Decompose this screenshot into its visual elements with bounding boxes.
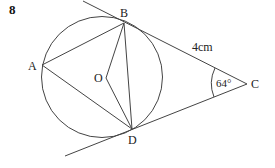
angle-arc-c: [211, 68, 215, 97]
problem-number: 8: [9, 2, 16, 17]
label-c: C: [251, 77, 259, 91]
label-a: A: [28, 59, 37, 73]
label-d: D: [128, 133, 137, 147]
segment-od: [106, 78, 132, 129]
label-o: O: [94, 71, 103, 85]
angle-c-label: 64°: [216, 77, 231, 89]
segment-bd: [124, 23, 132, 129]
geometry-diagram: 8 B A O D C 4cm 64°: [0, 0, 275, 168]
label-b: B: [120, 6, 128, 20]
segment-ad: [42, 65, 132, 129]
segment-ab: [42, 23, 124, 65]
tangent-line-dc: [65, 84, 247, 156]
length-bc-label: 4cm: [192, 40, 213, 54]
